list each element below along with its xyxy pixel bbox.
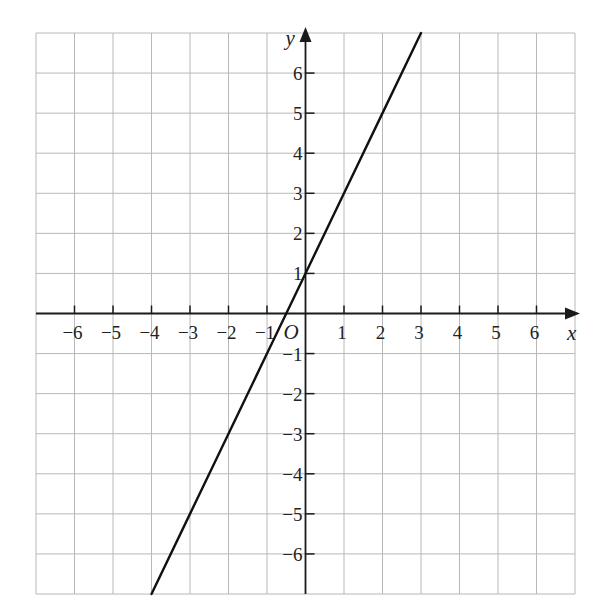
y-tick-label: −1 [282, 344, 302, 365]
x-tick-label: 4 [453, 322, 463, 343]
x-tick-label: −4 [139, 322, 160, 343]
x-tick-label: −5 [101, 322, 121, 343]
y-tick-label: 6 [293, 63, 303, 84]
y-axis-label: y [284, 26, 296, 50]
x-tick-label: 5 [491, 322, 501, 343]
y-tick-label: −3 [282, 424, 302, 445]
y-tick-label: 4 [293, 143, 303, 164]
x-tick-label: −3 [178, 322, 198, 343]
x-tick-label: −6 [62, 322, 82, 343]
x-axis-label: x [566, 321, 577, 345]
y-tick-label: 3 [293, 183, 303, 204]
y-axis-arrow-icon [300, 27, 312, 42]
chart-figure: −6−5−4−3−2−1123456−6−5−4−3−2−1123456 x y… [0, 0, 611, 614]
coordinate-grid-plot: −6−5−4−3−2−1123456−6−5−4−3−2−1123456 x y… [0, 0, 611, 614]
x-tick-label: 2 [376, 322, 386, 343]
x-axis-arrow-icon [565, 308, 580, 320]
y-tick-label: 2 [293, 223, 303, 244]
x-tick-label: −2 [216, 322, 236, 343]
y-tick-label: −6 [282, 544, 302, 565]
x-tick-label: −1 [255, 322, 275, 343]
origin-label: O [284, 320, 299, 344]
x-tick-label: 6 [530, 322, 540, 343]
x-tick-label: 3 [414, 322, 424, 343]
y-tick-label: −5 [282, 504, 302, 525]
x-tick-label: 1 [337, 322, 347, 343]
y-tick-label: −2 [282, 384, 302, 405]
y-tick-label: 5 [293, 103, 303, 124]
y-tick-label: −4 [282, 464, 303, 485]
